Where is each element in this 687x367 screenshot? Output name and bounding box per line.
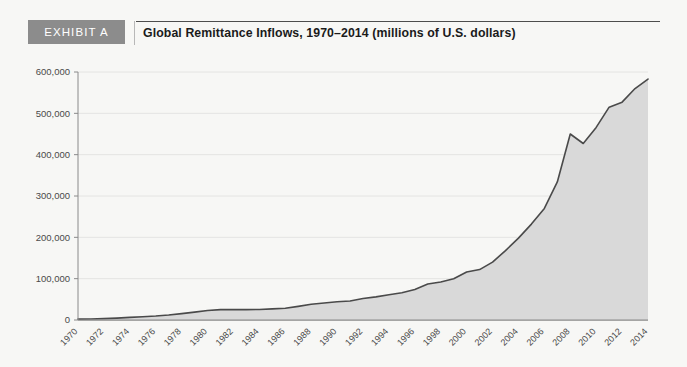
area-series-group [78,79,648,320]
x-tick-label: 1986 [265,326,286,347]
x-tick-label: 2012 [602,326,623,347]
x-tick-label: 1980 [188,326,209,347]
area-fill [78,79,648,320]
x-tick-label: 1984 [240,326,261,347]
x-tick-label: 1982 [214,326,235,347]
x-tick-label: 2000 [447,326,468,347]
x-tick-label: 1974 [110,326,131,347]
remittance-area-chart: 0100,000200,000300,000400,000500,000600,… [0,0,687,367]
x-tick-label: 2010 [576,326,597,347]
y-tick-label: 600,000 [36,66,70,77]
chart-container: 0100,000200,000300,000400,000500,000600,… [0,0,687,367]
x-tick-label: 1990 [317,326,338,347]
x-axis-labels-group: 1970197219741976197819801982198419861988… [58,326,649,347]
x-tick-label: 1970 [58,326,79,347]
y-tick-label: 0 [65,314,70,325]
x-tick-label: 1996 [395,326,416,347]
x-tick-label: 2004 [499,326,520,347]
x-tick-label: 1972 [84,326,105,347]
x-tick-label: 1998 [421,326,442,347]
x-tick-label: 2014 [628,326,649,347]
x-tick-label: 1994 [369,326,390,347]
x-tick-label: 2008 [550,326,571,347]
x-tick-label: 2006 [525,326,546,347]
exhibit-page: EXHIBIT A Global Remittance Inflows, 197… [0,0,687,367]
y-tick-label: 200,000 [36,232,70,243]
x-tick-label: 1992 [343,326,364,347]
x-tick-label: 2002 [473,326,494,347]
x-tick-label: 1978 [162,326,183,347]
y-tick-label: 400,000 [36,149,70,160]
y-tick-label: 300,000 [36,190,70,201]
x-tick-label: 1988 [291,326,312,347]
x-tick-label: 1976 [136,326,157,347]
y-tick-label: 100,000 [36,273,70,284]
y-axis-labels-group: 0100,000200,000300,000400,000500,000600,… [36,66,78,325]
y-tick-label: 500,000 [36,108,70,119]
